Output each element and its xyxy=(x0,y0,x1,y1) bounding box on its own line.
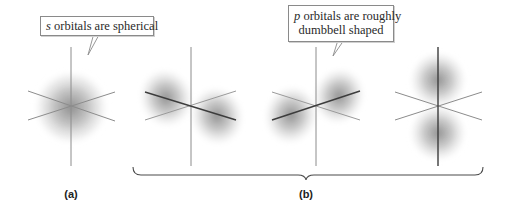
callout-s-tail xyxy=(88,33,100,55)
callout-text-line1: orbitals are roughly xyxy=(300,9,401,23)
s-orbital-callout: s orbitals are spherical xyxy=(40,16,154,36)
callout-p-tail xyxy=(333,40,344,56)
panel-label-a: (a) xyxy=(64,188,77,200)
s-orbital xyxy=(28,47,115,166)
callout-text-line2: dumbbell shaped xyxy=(298,23,383,37)
panel-label-b: (b) xyxy=(299,188,313,200)
callout-text: orbitals are spherical xyxy=(51,19,158,33)
brace-b xyxy=(133,167,483,180)
p-orbital-z xyxy=(395,47,482,166)
p-orbital-callout: p orbitals are roughlydumbbell shaped xyxy=(288,5,394,42)
orbital-lobe-right xyxy=(182,79,252,153)
orbital-figure: s orbitals are spherical p orbitals are … xyxy=(0,0,508,210)
p-orbital-x xyxy=(131,47,252,166)
p-orbital-y xyxy=(256,47,373,166)
